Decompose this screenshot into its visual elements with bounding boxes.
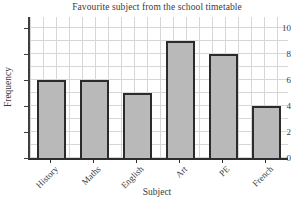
- y-tick-4: 4: [269, 101, 291, 112]
- chart-title: Favourite subject from the school timeta…: [28, 2, 286, 12]
- x-tick-mark: [136, 160, 137, 163]
- bar-art: [166, 41, 195, 158]
- x-tick-mark: [179, 160, 180, 163]
- bar-maths: [80, 80, 109, 158]
- bar-english: [123, 93, 152, 158]
- y-tick-2: 2: [269, 127, 291, 138]
- y-tick-mark: [24, 54, 28, 55]
- y-tick-mark: [24, 158, 28, 159]
- bar-pe: [209, 54, 238, 158]
- x-tick-french: French: [250, 164, 275, 189]
- x-tick-art: Art: [173, 164, 189, 180]
- x-axis-label: Subject: [28, 187, 286, 197]
- y-tick-mark: [24, 80, 28, 81]
- x-tick-mark: [222, 160, 223, 163]
- x-tick-pe: PE: [217, 164, 232, 179]
- x-tick-mark: [93, 160, 94, 163]
- y-tick-mark: [24, 106, 28, 107]
- y-tick-10: 10: [269, 23, 291, 34]
- y-tick-mark: [24, 132, 28, 133]
- x-tick-mark: [50, 160, 51, 163]
- bar-chart: Favourite subject from the school timeta…: [0, 0, 291, 204]
- bar-history: [37, 80, 66, 158]
- y-tick-mark: [24, 28, 28, 29]
- y-tick-8: 8: [269, 49, 291, 60]
- plot-area: [28, 17, 288, 160]
- x-tick-maths: Maths: [80, 164, 103, 187]
- x-tick-mark: [265, 160, 266, 163]
- y-tick-6: 6: [269, 75, 291, 86]
- y-axis-label: Frequency: [3, 47, 13, 127]
- y-tick-0: 0: [269, 153, 291, 164]
